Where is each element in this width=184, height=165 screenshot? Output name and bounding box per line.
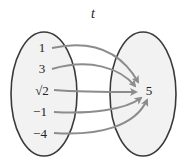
domain-element: −1 xyxy=(33,104,47,119)
codomain-set-ellipse xyxy=(110,32,176,156)
domain-element: 1 xyxy=(39,40,46,55)
domain-element: 3 xyxy=(39,61,46,76)
domain-element: √2 xyxy=(35,83,49,98)
diagram-canvas: t 1 3 √2 −1 −4 5 xyxy=(0,0,184,165)
codomain-element: 5 xyxy=(146,83,153,98)
function-title: t xyxy=(91,6,96,21)
domain-element: −4 xyxy=(33,126,47,141)
function-mapping-diagram: t 1 3 √2 −1 −4 5 xyxy=(0,0,184,165)
